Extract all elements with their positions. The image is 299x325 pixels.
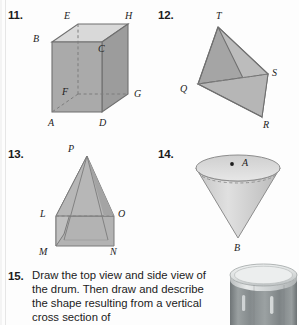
vertex-label-M: M: [39, 247, 47, 257]
vertex-label-S: S: [272, 68, 277, 78]
vertex-label-G: G: [134, 89, 141, 99]
vertex-label-L: L: [40, 209, 46, 219]
problem-11: 11. E H B C F G A D: [0, 0, 150, 140]
problem-13-number: 13.: [8, 148, 23, 160]
problem-14-number: 14.: [158, 148, 173, 160]
cone-figure: [188, 146, 293, 256]
problem-15-number: 15.: [8, 270, 23, 282]
vertex-label-F: F: [62, 87, 68, 97]
problem-12-number: 12.: [158, 9, 173, 21]
vertex-label-P: P: [68, 144, 74, 154]
drum-photo: [228, 263, 299, 325]
vertex-label-D: D: [99, 118, 106, 128]
drum-photo-svg: [228, 263, 299, 325]
problem-15-text: Draw the top view and side view of the d…: [32, 268, 217, 324]
vertex-label-Q: Q: [180, 84, 187, 94]
vertex-label-B: B: [33, 34, 39, 44]
rectangular-prism-figure: [40, 12, 145, 130]
rectangular-prism-svg: [40, 12, 145, 130]
vertex-label-C: C: [98, 44, 105, 54]
vertex-label-O: O: [118, 209, 125, 219]
vertex-label-H: H: [125, 11, 132, 21]
vertex-label-E: E: [64, 11, 70, 21]
problem-14: 14.: [150, 140, 299, 268]
vertex-label-R: R: [263, 120, 269, 130]
vertex-label-A: A: [48, 118, 54, 128]
problem-12: 12. T S Q R: [150, 0, 299, 140]
tetrahedron-figure: [190, 12, 295, 130]
vertex-label-A: A: [242, 158, 248, 168]
problem-11-number: 11.: [8, 9, 23, 21]
cone-svg: [188, 146, 293, 256]
problem-13: 13. P L O M N: [0, 140, 150, 268]
worksheet-page: 11. E H B C F G A D 12.: [0, 0, 299, 325]
tetrahedron-svg: [190, 12, 295, 130]
pyramid-figure: [42, 148, 137, 258]
vertex-label-N: N: [110, 247, 117, 257]
pyramid-svg: [42, 148, 137, 258]
vertex-label-T: T: [216, 11, 222, 21]
vertex-label-B: B: [234, 243, 240, 253]
